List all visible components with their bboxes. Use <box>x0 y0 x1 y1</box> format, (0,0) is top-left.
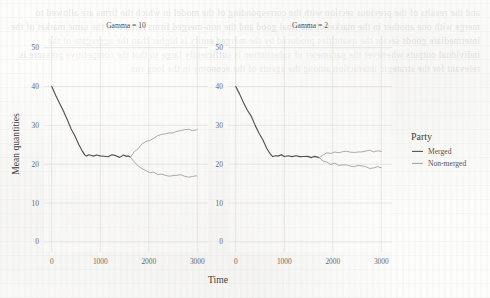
x-tick-label-2000: 2000 <box>325 257 340 266</box>
legend-label-non-merged: Non-merged <box>428 159 466 168</box>
y-tick-label-40: 40 <box>32 82 40 91</box>
chart-figure: Gamma = 10010203040500100020003000Gamma … <box>0 0 490 298</box>
y-tick-label-0: 0 <box>219 237 223 246</box>
legend: PartyMergedNon-merged <box>411 131 466 168</box>
faceted-line-chart: Gamma = 10010203040500100020003000Gamma … <box>0 0 490 298</box>
y-tick-label-10: 10 <box>32 199 40 208</box>
x-tick-label-1000: 1000 <box>277 257 292 266</box>
y-tick-label-50: 50 <box>32 43 40 52</box>
facet-panel-gamma-10: Gamma = 10010203040500100020003000 <box>32 21 208 266</box>
y-axis-title: Mean quantities <box>10 113 21 175</box>
y-tick-label-20: 20 <box>32 160 40 169</box>
legend-label-merged: Merged <box>428 147 452 156</box>
x-tick-label-0: 0 <box>234 257 238 266</box>
y-tick-label-40: 40 <box>216 82 224 91</box>
x-tick-label-0: 0 <box>50 257 54 266</box>
y-tick-label-0: 0 <box>35 237 39 246</box>
x-axis-title: Time <box>208 274 228 285</box>
y-tick-label-50: 50 <box>216 43 224 52</box>
panel-background <box>44 36 208 252</box>
y-tick-label-30: 30 <box>216 121 224 130</box>
facet-title-gamma-10: Gamma = 10 <box>106 21 146 30</box>
y-tick-label-20: 20 <box>216 160 224 169</box>
x-tick-label-3000: 3000 <box>190 257 205 266</box>
legend-title: Party <box>411 131 432 142</box>
x-tick-label-1000: 1000 <box>93 257 108 266</box>
x-tick-label-2000: 2000 <box>141 257 156 266</box>
facet-panel-gamma-2: Gamma = 2010203040500100020003000 <box>216 21 392 266</box>
panel-background <box>228 36 392 252</box>
y-tick-label-10: 10 <box>216 199 224 208</box>
facet-title-gamma-2: Gamma = 2 <box>292 21 328 30</box>
y-tick-label-30: 30 <box>32 121 40 130</box>
x-tick-label-3000: 3000 <box>374 257 389 266</box>
